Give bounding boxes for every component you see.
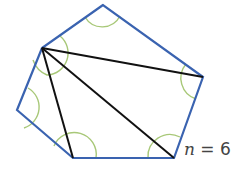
n-label: n = 6 [184,139,231,159]
angle-arc-bottom-left [54,133,96,158]
angle-arc-top [85,16,120,27]
n-variable: n [184,139,195,159]
n-value: 6 [220,139,231,159]
diagonal-2 [42,48,174,158]
diagonal-3 [42,48,73,158]
equals-sign: = [200,139,214,159]
